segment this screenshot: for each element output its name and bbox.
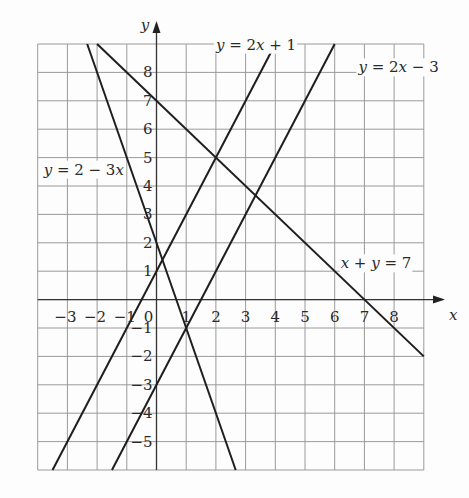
x-axis-label: x <box>449 306 458 324</box>
labels: xy−3−2−1012345678−5−4−3−2−112345678y = 2… <box>42 16 458 451</box>
y-tick-label: 4 <box>143 177 153 195</box>
y-tick-label: 3 <box>143 205 153 223</box>
x-tick-label: 7 <box>360 308 370 326</box>
x-tick-label: 6 <box>330 308 340 326</box>
axes <box>38 21 445 470</box>
x-tick-label: −2 <box>84 308 106 326</box>
y-tick-label: 7 <box>143 92 153 110</box>
x-tick-label: 5 <box>300 308 310 326</box>
x-axis-arrow-icon <box>433 296 445 304</box>
equation-label: x + y = 7 <box>341 254 412 272</box>
y-tick-label: −1 <box>130 319 152 337</box>
y-tick-label: −5 <box>130 433 152 451</box>
y-tick-label: −4 <box>130 404 152 422</box>
x-tick-label: 4 <box>271 308 281 326</box>
x-tick-label: 2 <box>211 308 221 326</box>
series-line <box>87 44 236 470</box>
y-tick-label: 2 <box>143 234 153 252</box>
y-tick-label: 8 <box>143 63 153 81</box>
equation-label: y = 2x − 3 <box>357 58 438 76</box>
x-tick-label: 8 <box>389 308 399 326</box>
y-tick-label: −3 <box>130 376 152 394</box>
x-tick-label: 3 <box>241 308 251 326</box>
y-axis-arrow-icon <box>153 21 161 33</box>
y-tick-label: −2 <box>130 347 152 365</box>
y-tick-label: 1 <box>143 262 153 280</box>
equation-label: y = 2 − 3x <box>43 161 125 179</box>
y-tick-label: 6 <box>143 120 153 138</box>
x-tick-label: 1 <box>181 308 191 326</box>
chart: xy−3−2−1012345678−5−4−3−2−112345678y = 2… <box>0 0 469 498</box>
y-tick-label: 5 <box>143 149 153 167</box>
y-axis-label: y <box>140 16 150 34</box>
equation-label: y = 2x + 1 <box>215 36 296 54</box>
x-tick-label: −3 <box>54 308 76 326</box>
